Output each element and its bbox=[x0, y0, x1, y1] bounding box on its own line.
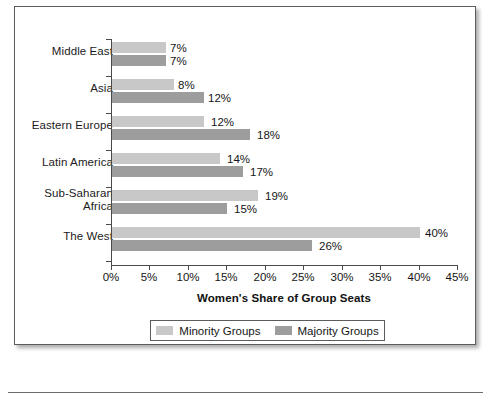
x-tick-label-45: 45% bbox=[437, 271, 477, 283]
bar-value-majority-eastern-europe: 18% bbox=[257, 130, 280, 141]
y-tick bbox=[106, 39, 111, 40]
bar-value-majority-asia: 12% bbox=[208, 93, 231, 104]
bar-majority-asia bbox=[112, 92, 204, 103]
bar-value-minority-sub-saharan-africa: 19% bbox=[265, 191, 288, 202]
bar-value-minority-latin-america: 14% bbox=[227, 154, 250, 165]
bar-minority-asia bbox=[112, 79, 174, 90]
y-tick bbox=[106, 76, 111, 77]
x-tick bbox=[226, 265, 227, 270]
figure-frame: Middle East Asia Eastern Europe Latin Am… bbox=[14, 6, 476, 345]
x-tick-label-30: 30% bbox=[322, 271, 362, 283]
bar-minority-sub-saharan-africa bbox=[112, 190, 258, 201]
x-tick bbox=[265, 265, 266, 270]
bar-value-majority-middle-east: 7% bbox=[170, 56, 187, 67]
bar-minority-middle-east bbox=[112, 42, 166, 53]
x-tick-label-15: 15% bbox=[206, 271, 246, 283]
x-tick-label-5: 5% bbox=[129, 271, 169, 283]
x-tick-label-25: 25% bbox=[283, 271, 323, 283]
x-tick-label-0: 0% bbox=[91, 271, 131, 283]
bar-minority-the-west bbox=[112, 227, 420, 238]
legend-entry-minority-groups: Minority Groups bbox=[156, 325, 260, 337]
bar-minority-latin-america bbox=[112, 153, 220, 164]
x-tick-label-20: 20% bbox=[245, 271, 285, 283]
legend-swatch-minority-icon bbox=[156, 326, 173, 335]
bar-value-minority-asia: 8% bbox=[178, 80, 195, 91]
category-label-the-west: The West bbox=[0, 230, 113, 243]
legend-label-majority-groups: Majority Groups bbox=[298, 325, 379, 337]
legend-entry-majority-groups: Majority Groups bbox=[275, 325, 379, 337]
bar-value-minority-the-west: 40% bbox=[425, 228, 448, 239]
x-tick bbox=[342, 265, 343, 270]
category-label-asia: Asia bbox=[0, 82, 113, 95]
x-tick-label-10: 10% bbox=[168, 271, 208, 283]
x-axis-line bbox=[111, 265, 457, 266]
page-bottom-rule bbox=[8, 392, 483, 393]
bar-majority-latin-america bbox=[112, 166, 243, 177]
y-tick bbox=[106, 261, 111, 262]
x-tick bbox=[188, 265, 189, 270]
chart-legend: Minority Groups Majority Groups bbox=[150, 320, 385, 341]
bar-majority-the-west bbox=[112, 240, 312, 251]
x-tick bbox=[380, 265, 381, 270]
category-label-middle-east: Middle East bbox=[0, 45, 113, 58]
x-tick bbox=[419, 265, 420, 270]
category-label-latin-america: Latin America bbox=[0, 156, 113, 169]
x-tick-label-40: 40% bbox=[399, 271, 439, 283]
x-tick bbox=[303, 265, 304, 270]
bar-value-majority-sub-saharan-africa: 15% bbox=[234, 204, 257, 215]
y-tick bbox=[106, 187, 111, 188]
bar-value-majority-latin-america: 17% bbox=[250, 167, 273, 178]
bar-value-minority-middle-east: 7% bbox=[170, 43, 187, 54]
x-tick bbox=[111, 265, 112, 270]
x-axis-title: Women's Share of Group Seats bbox=[111, 292, 457, 304]
y-tick bbox=[106, 113, 111, 114]
legend-swatch-majority-icon bbox=[275, 326, 292, 335]
x-tick bbox=[457, 265, 458, 270]
category-label-eastern-europe: Eastern Europe bbox=[0, 119, 113, 132]
y-tick bbox=[106, 224, 111, 225]
bar-majority-eastern-europe bbox=[112, 129, 250, 140]
bar-minority-eastern-europe bbox=[112, 116, 204, 127]
category-label-sub-saharan-africa: Sub-SaharanAfrica bbox=[0, 187, 113, 213]
x-tick-label-35: 35% bbox=[360, 271, 400, 283]
bar-value-minority-eastern-europe: 12% bbox=[211, 117, 234, 128]
y-tick bbox=[106, 150, 111, 151]
bar-majority-middle-east bbox=[112, 55, 166, 66]
bar-value-majority-the-west: 26% bbox=[319, 241, 342, 252]
x-tick bbox=[149, 265, 150, 270]
bar-chart: Middle East Asia Eastern Europe Latin Am… bbox=[15, 7, 477, 346]
bar-majority-sub-saharan-africa bbox=[112, 203, 227, 214]
legend-label-minority-groups: Minority Groups bbox=[179, 325, 260, 337]
